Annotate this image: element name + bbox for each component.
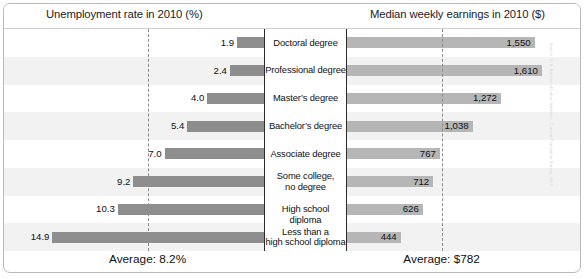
category-label: Doctoral degree [265,38,346,49]
left-panel-title: Unemployment rate in 2010 (%) [46,8,203,20]
unemployment-value-label: 9.2 [117,175,130,189]
unemployment-bar [207,93,264,104]
unemployment-value-label: 1.9 [221,36,234,50]
category-label: Less than ahigh school diploma [265,227,346,248]
category-label-line: Professional degree [265,65,346,76]
unemployment-value-label: 2.4 [214,64,227,78]
unemployment-bar [165,148,264,159]
category-label-line: Master’s degree [265,93,346,104]
unemployment-value-label: 10.3 [96,202,115,216]
earnings-value-label: 1,038 [431,119,469,133]
category-label: Associate degree [265,149,346,160]
earnings-value-label: 767 [398,147,436,161]
unemployment-bar [237,37,264,48]
unemployment-average-line [148,29,149,251]
right-panel-title: Median weekly earnings in 2010 ($) [370,8,545,20]
category-label: Some college,no degree [265,171,346,192]
earnings-value-label: 1,610 [500,64,538,78]
unemployment-bar [133,176,264,187]
category-label-line: High school diploma [265,204,346,225]
category-label: High school diploma [265,204,346,225]
category-label-line: Associate degree [265,149,346,160]
unemployment-value-label: 4.0 [191,91,204,105]
earnings-value-label: 626 [381,202,419,216]
category-label-line: Doctoral degree [265,38,346,49]
earnings-average-label: Average: $782 [403,252,480,266]
earnings-average-line [442,29,443,251]
earnings-value-label: 712 [391,175,429,189]
earnings-value-label: 444 [359,230,397,244]
category-label: Professional degree [265,65,346,76]
unemployment-value-label: 14.9 [31,230,50,244]
unemployment-value-label: 5.4 [171,119,184,133]
category-label-column: Doctoral degreeProfessional degreeMaster… [264,29,347,251]
unemployment-bar [230,65,264,76]
unemployment-bar [118,204,264,215]
chart-page: Unemployment rate in 2010 (%) Median wee… [0,0,588,279]
category-label-line: Bachelor’s degree [265,121,346,132]
unemployment-bar [52,232,264,243]
earnings-value-label: 1,550 [493,36,531,50]
category-label: Master’s degree [265,93,346,104]
earnings-value-label: 1,272 [459,91,497,105]
category-label-line: no degree [265,182,346,193]
unemployment-bar [187,121,264,132]
unemployment-average-label: Average: 8.2% [109,252,186,266]
chart-header: Unemployment rate in 2010 (%) Median wee… [4,4,580,29]
category-label: Bachelor’s degree [265,121,346,132]
unemployment-value-label: 7.0 [148,147,161,161]
chart-frame: Unemployment rate in 2010 (%) Median wee… [3,3,581,273]
category-label-line: high school diploma [265,237,346,248]
source-credit: Source: U.S. Bureau of Labor Statistics,… [549,40,554,190]
